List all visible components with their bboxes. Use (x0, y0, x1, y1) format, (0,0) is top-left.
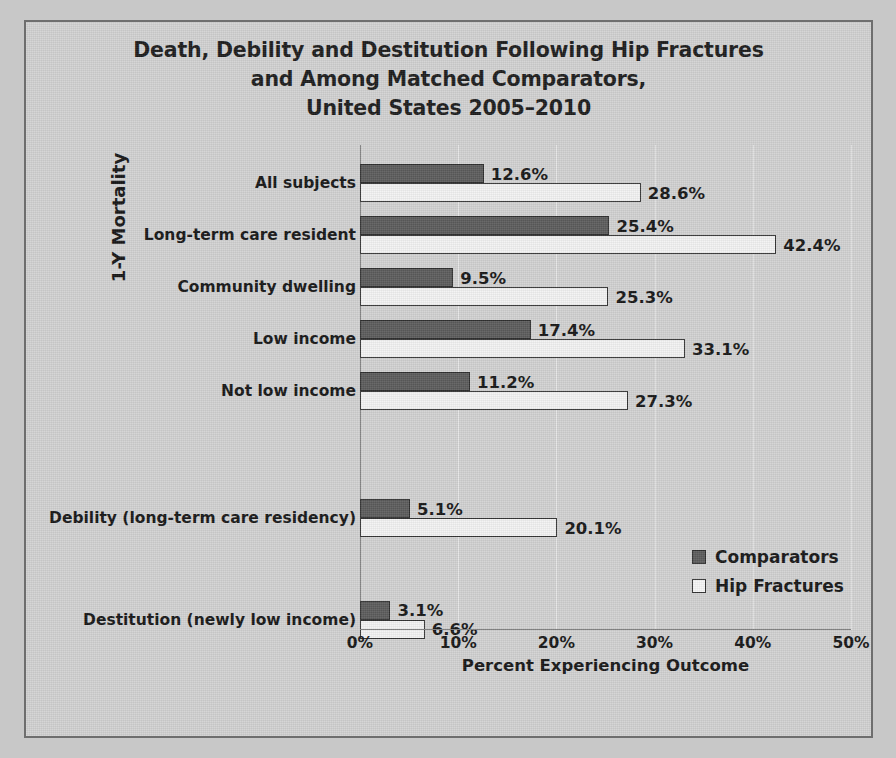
bar-comparators (360, 601, 390, 620)
bar-row: 11.2% (360, 372, 851, 391)
bar-comparators (360, 372, 470, 391)
bar-hip-fractures (360, 339, 685, 358)
bar-row: 17.4% (360, 320, 851, 339)
x-tick-label-20: 20% (538, 634, 575, 652)
bar-comparators (360, 499, 410, 518)
bar-group: 5.1%20.1% (360, 499, 851, 537)
x-tick-label-30: 30% (636, 634, 673, 652)
bar-hip-fractures (360, 183, 641, 202)
legend-item-hip-fractures: Hip Fractures (692, 576, 844, 596)
bar-row: 33.1% (360, 339, 851, 358)
x-tick-label-50: 50% (832, 634, 869, 652)
bar-value-label: 12.6% (484, 164, 548, 183)
bar-group: 9.5%25.3% (360, 268, 851, 306)
bar-group: 17.4%33.1% (360, 320, 851, 358)
chart-title-line-2: and Among Matched Comparators, (26, 65, 871, 94)
bar-value-label: 42.4% (776, 235, 840, 254)
bar-comparators (360, 164, 484, 183)
chart-title: Death, Debility and Destitution Followin… (26, 36, 871, 123)
bar-value-label: 33.1% (685, 339, 749, 358)
bar-row: 20.1% (360, 518, 851, 537)
bar-row: 5.1% (360, 499, 851, 518)
bar-value-label: 27.3% (628, 391, 692, 410)
category-label-column: All subjectsLong-term care residentCommu… (56, 145, 356, 630)
bar-value-label: 20.1% (557, 518, 621, 537)
chart-title-line-3: United States 2005–2010 (26, 94, 871, 123)
bar-value-label: 28.6% (641, 183, 705, 202)
x-tick-label-10: 10% (440, 634, 477, 652)
x-axis-ticks: 0%10%20%30%40%50% (360, 634, 851, 658)
legend-label-hip-fractures: Hip Fractures (715, 576, 844, 596)
category-label: Low income (253, 330, 356, 348)
bar-row: 28.6% (360, 183, 851, 202)
chart-figure: Death, Debility and Destitution Followin… (24, 20, 873, 738)
x-axis-baseline (360, 629, 851, 630)
category-label: Debility (long-term care residency) (49, 509, 356, 527)
x-tick-label-40: 40% (734, 634, 771, 652)
bar-value-label: 25.4% (609, 216, 673, 235)
bar-value-label: 25.3% (608, 287, 672, 306)
bar-hip-fractures (360, 518, 557, 537)
x-tick-label-0: 0% (347, 634, 373, 652)
bar-hip-fractures (360, 235, 776, 254)
bar-row: 25.4% (360, 216, 851, 235)
bar-row: 12.6% (360, 164, 851, 183)
chart-legend: Comparators Hip Fractures (692, 547, 844, 605)
bar-hip-fractures (360, 287, 608, 306)
bar-value-label: 17.4% (531, 320, 595, 339)
category-label: Not low income (221, 382, 356, 400)
bar-value-label: 9.5% (453, 268, 506, 287)
legend-item-comparators: Comparators (692, 547, 844, 567)
gridline-50 (851, 145, 852, 630)
bar-value-label: 3.1% (390, 601, 443, 620)
bar-row: 27.3% (360, 391, 851, 410)
bar-row: 25.3% (360, 287, 851, 306)
bar-group: 12.6%28.6% (360, 164, 851, 202)
bar-group: 11.2%27.3% (360, 372, 851, 410)
category-label: Destitution (newly low income) (83, 611, 356, 629)
legend-swatch-hip-fractures-icon (692, 579, 706, 593)
bar-comparators (360, 216, 609, 235)
legend-label-comparators: Comparators (715, 547, 839, 567)
bar-comparators (360, 320, 531, 339)
chart-title-line-1: Death, Debility and Destitution Followin… (26, 36, 871, 65)
category-label: Community dwelling (177, 278, 356, 296)
category-label: Long-term care resident (144, 226, 356, 244)
bar-comparators (360, 268, 453, 287)
bar-value-label: 11.2% (470, 372, 534, 391)
bar-row: 9.5% (360, 268, 851, 287)
legend-swatch-comparators-icon (692, 550, 706, 564)
category-label: All subjects (255, 174, 356, 192)
bar-row: 42.4% (360, 235, 851, 254)
x-axis-title: Percent Experiencing Outcome (360, 656, 851, 675)
bar-hip-fractures (360, 391, 628, 410)
bar-value-label: 5.1% (410, 499, 463, 518)
bar-group: 25.4%42.4% (360, 216, 851, 254)
